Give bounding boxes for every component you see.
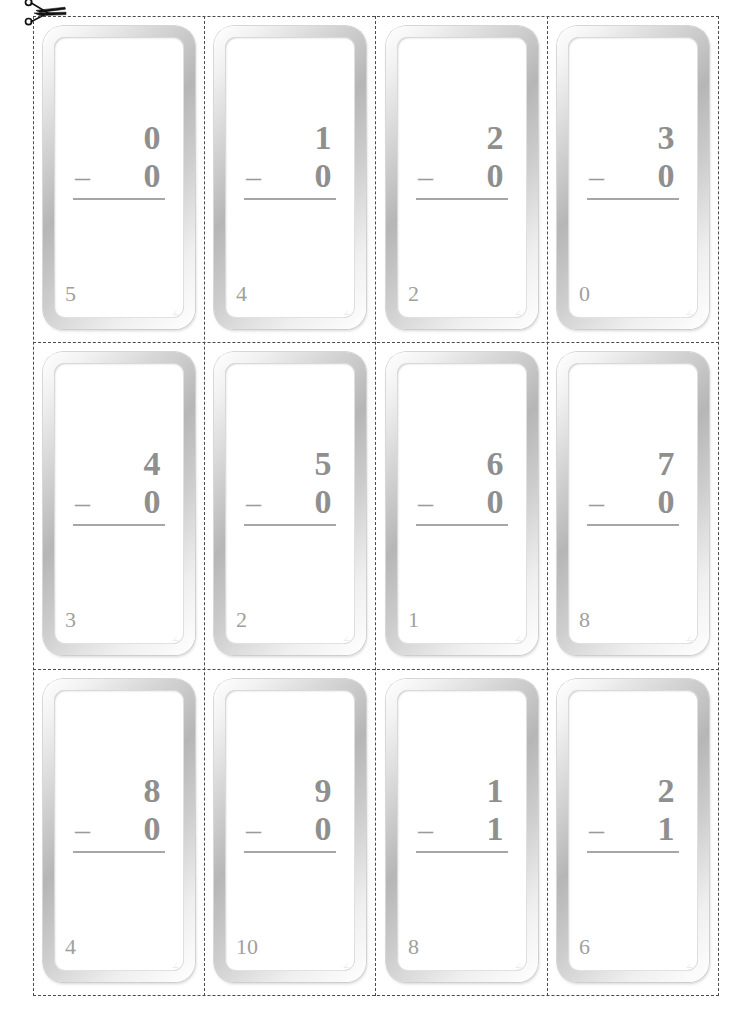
- subtraction-problem: 2 – 1: [587, 772, 679, 853]
- flash-card-face: 9 – 0 10: [225, 690, 355, 971]
- minuend: 4: [144, 445, 166, 483]
- flash-card[interactable]: 7 – 0 8: [557, 352, 709, 655]
- flash-card-face: 3 – 0 0: [568, 37, 698, 318]
- flash-card-face: 1 – 0 4: [225, 37, 355, 318]
- registration-tick-icon: [343, 963, 350, 968]
- registration-tick-icon: [686, 636, 693, 641]
- flash-card[interactable]: 1 – 0 4: [214, 26, 366, 329]
- subtraction-problem: 4 – 0: [73, 445, 165, 526]
- flash-card[interactable]: 9 – 0 10: [214, 679, 366, 982]
- subtraction-problem: 2 – 0: [416, 119, 508, 200]
- subtraction-problem: 8 – 0: [73, 772, 165, 853]
- subtraction-problem: 0 – 0: [73, 119, 165, 200]
- subtrahend-row: – 1: [587, 810, 679, 849]
- subtrahend: 0: [487, 157, 509, 195]
- problem-rule: [416, 851, 508, 853]
- registration-tick-icon: [343, 310, 350, 315]
- flash-card-face: 2 – 1 6: [568, 690, 698, 971]
- subtrahend: 0: [487, 483, 509, 521]
- subtraction-problem: 3 – 0: [587, 119, 679, 200]
- minuend-row: 5: [244, 445, 336, 483]
- answer-label: 8: [579, 608, 590, 632]
- flash-card-face: 4 – 0 3: [54, 363, 184, 644]
- minuend-row: 8: [73, 772, 165, 810]
- registration-tick-icon: [172, 963, 179, 968]
- answer-label: 1: [408, 608, 419, 632]
- minuend: 0: [144, 119, 166, 157]
- flash-card[interactable]: 0 – 0 5: [43, 26, 195, 329]
- subtrahend: 0: [315, 157, 337, 195]
- answer-label: 4: [65, 935, 76, 959]
- subtrahend-row: – 1: [416, 810, 508, 849]
- minus-sign: –: [244, 158, 262, 196]
- problem-rule: [587, 524, 679, 526]
- subtraction-problem: 9 – 0: [244, 772, 336, 853]
- subtrahend: 1: [658, 810, 680, 848]
- registration-tick-icon: [515, 310, 522, 315]
- registration-tick-icon: [686, 310, 693, 315]
- answer-label: 8: [408, 935, 419, 959]
- minuend: 1: [487, 772, 509, 810]
- registration-tick-icon: [343, 636, 350, 641]
- minus-sign: –: [73, 158, 91, 196]
- minus-sign: –: [73, 811, 91, 849]
- minuend-row: 3: [587, 119, 679, 157]
- minuend: 1: [315, 119, 337, 157]
- minuend-row: 6: [416, 445, 508, 483]
- subtrahend-row: – 0: [244, 810, 336, 849]
- subtrahend: 0: [144, 810, 166, 848]
- problem-rule: [73, 198, 165, 200]
- minus-sign: –: [416, 484, 434, 522]
- flash-card[interactable]: 6 – 0 1: [386, 352, 538, 655]
- minuend: 7: [658, 445, 680, 483]
- registration-tick-icon: [172, 636, 179, 641]
- flash-card-face: 2 – 0 2: [397, 37, 527, 318]
- answer-label: 5: [65, 282, 76, 306]
- subtraction-problem: 5 – 0: [244, 445, 336, 526]
- minuend-row: 4: [73, 445, 165, 483]
- flash-card[interactable]: 8 – 0 4: [43, 679, 195, 982]
- answer-label: 4: [236, 282, 247, 306]
- problem-rule: [244, 198, 336, 200]
- minuend-row: 7: [587, 445, 679, 483]
- flash-card[interactable]: 2 – 0 2: [386, 26, 538, 329]
- problem-rule: [244, 524, 336, 526]
- flash-card-face: 1 – 1 8: [397, 690, 527, 971]
- problem-rule: [587, 851, 679, 853]
- registration-tick-icon: [515, 963, 522, 968]
- subtrahend-row: – 0: [416, 483, 508, 522]
- answer-label: 10: [236, 935, 258, 959]
- subtrahend-row: – 0: [73, 810, 165, 849]
- registration-tick-icon: [686, 963, 693, 968]
- flash-card-face: 7 – 0 8: [568, 363, 698, 644]
- minuend-row: 1: [416, 772, 508, 810]
- problem-rule: [416, 524, 508, 526]
- subtrahend: 0: [144, 483, 166, 521]
- problem-rule: [73, 851, 165, 853]
- flash-card[interactable]: 5 – 0 2: [214, 352, 366, 655]
- flash-card[interactable]: 3 – 0 0: [557, 26, 709, 329]
- subtrahend: 0: [658, 483, 680, 521]
- minus-sign: –: [244, 811, 262, 849]
- subtrahend-row: – 0: [416, 157, 508, 196]
- answer-label: 2: [236, 608, 247, 632]
- flash-card[interactable]: 4 – 0 3: [43, 352, 195, 655]
- problem-rule: [416, 198, 508, 200]
- subtrahend-row: – 0: [587, 157, 679, 196]
- minuend-row: 0: [73, 119, 165, 157]
- flash-card[interactable]: 1 – 1 8: [386, 679, 538, 982]
- subtrahend-row: – 0: [244, 157, 336, 196]
- subtrahend-row: – 0: [244, 483, 336, 522]
- flash-card-face: 5 – 0 2: [225, 363, 355, 644]
- minuend: 2: [487, 119, 509, 157]
- subtraction-problem: 1 – 0: [244, 119, 336, 200]
- minuend-row: 2: [416, 119, 508, 157]
- answer-label: 2: [408, 282, 419, 306]
- flash-card[interactable]: 2 – 1 6: [557, 679, 709, 982]
- subtrahend: 0: [658, 157, 680, 195]
- minuend-row: 1: [244, 119, 336, 157]
- flash-card-face: 0 – 0 5: [54, 37, 184, 318]
- subtraction-problem: 1 – 1: [416, 772, 508, 853]
- minuend: 2: [658, 772, 680, 810]
- minuend: 5: [315, 445, 337, 483]
